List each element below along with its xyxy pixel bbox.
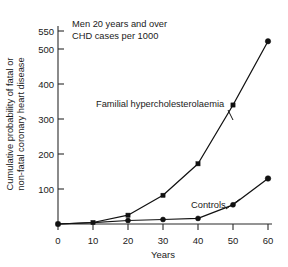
data-point-fh-60 — [265, 39, 270, 44]
x-tick-label-20: 20 — [123, 235, 134, 246]
series-label-controls: Controls — [191, 200, 226, 210]
data-point-controls-60 — [265, 176, 271, 182]
y-axis-title-line-2: non-fatal coronary heart disease — [16, 57, 26, 190]
series-label-fh-leader — [228, 110, 233, 120]
y-axis-ticks: 550 500 400 300 200 100 — [38, 26, 64, 195]
chart-annotation-block: Men 20 years and over CHD cases per 1000 — [72, 19, 167, 41]
x-tick-label-60: 60 — [263, 235, 274, 246]
data-point-fh-40 — [196, 162, 200, 166]
y-tick-label-200: 200 — [38, 149, 54, 160]
y-tick-label-300: 300 — [38, 114, 54, 125]
data-point-controls-30 — [161, 217, 166, 222]
annotation-line-2: CHD cases per 1000 — [72, 31, 158, 41]
x-axis-title: Years — [151, 249, 175, 260]
x-tick-label-30: 30 — [158, 235, 169, 246]
chart-canvas: Cumulative probability of fatal or non-f… — [0, 0, 288, 267]
data-point-controls-40 — [196, 216, 201, 221]
chart-figure: Cumulative probability of fatal or non-f… — [0, 0, 288, 267]
y-tick-label-550: 550 — [38, 26, 54, 37]
y-tick-label-100: 100 — [38, 184, 54, 195]
series-familial-hypercholesterolaemia — [56, 39, 271, 227]
data-point-fh-50 — [231, 103, 235, 107]
y-axis-title: Cumulative probability of fatal or non-f… — [5, 57, 26, 190]
data-point-controls-0 — [56, 222, 61, 227]
x-tick-label-0: 0 — [55, 235, 60, 246]
y-tick-label-500: 500 — [38, 44, 54, 55]
data-point-controls-20 — [126, 218, 131, 223]
y-tick-label-400: 400 — [38, 79, 54, 90]
x-tick-label-40: 40 — [193, 235, 204, 246]
x-tick-label-50: 50 — [228, 235, 239, 246]
data-point-fh-20 — [126, 213, 130, 217]
annotation-line-1: Men 20 years and over — [72, 19, 167, 29]
x-tick-label-10: 10 — [88, 235, 99, 246]
x-axis-ticks: 0 10 20 30 40 50 60 — [55, 224, 273, 246]
data-point-fh-30 — [161, 193, 165, 197]
y-axis-title-line-1: Cumulative probability of fatal or — [5, 58, 15, 191]
series-controls — [56, 176, 271, 227]
series-label-fh: Familial hypercholesterolaemia — [96, 99, 225, 109]
